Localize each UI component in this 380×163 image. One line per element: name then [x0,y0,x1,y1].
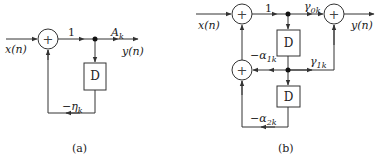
b-adder-output-plus: + [326,8,342,21]
b-alpha2-label: −α2k [250,113,277,127]
b-gamma1-label: γ1k [310,56,327,70]
b-output-label: y(n) [351,20,373,31]
b-gamma0-label: γ0k [304,1,321,15]
diagram-b [196,4,374,127]
b-adder-top-plus: + [234,8,250,21]
b-branch-node-top [286,12,291,17]
a-output-label: y(n) [122,46,144,57]
b-input-label: x(n) [198,20,220,31]
b-forward-gain: 1 [265,3,272,14]
a-input-label: x(n) [5,44,27,55]
a-branch-node [93,37,98,42]
a-forward-gain: 1 [68,27,75,38]
a-caption: (a) [72,143,87,154]
b-delay-2-label: D [277,91,300,103]
a-adder-plus: + [40,33,56,46]
a-output-gain: Ak [111,27,124,41]
b-caption: (b) [278,143,294,154]
b-branch-node-mid [286,68,291,73]
b-alpha1-label: −α1k [250,50,277,64]
b-delay-1-label: D [277,37,300,49]
a-feedback-gain: −ηk [62,101,83,115]
a-delay-label: D [84,70,106,82]
b-adder-feedback-plus: + [234,64,250,77]
signal-flow-graphs [0,0,380,163]
